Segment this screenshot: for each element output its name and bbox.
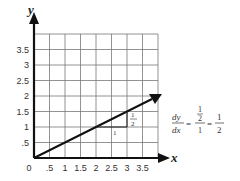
x-tick-label: 2.5: [105, 163, 118, 173]
svg-text:2: 2: [198, 114, 202, 123]
svg-text:dy: dy: [172, 112, 181, 122]
x-tick-label: 2: [93, 163, 98, 173]
y-tick-label: 2: [24, 91, 29, 101]
svg-text:=: =: [207, 119, 212, 129]
y-tick-label: 3: [24, 60, 29, 70]
svg-text:=: =: [186, 119, 191, 129]
x-axis-label: x: [170, 150, 178, 165]
tick-labels: 0.511.522.533.5.511.522.533.5: [16, 45, 148, 174]
svg-text:1: 1: [217, 112, 222, 122]
svg-text:dx: dx: [172, 125, 181, 135]
grid: [34, 34, 158, 158]
y-tick-label: 1.5: [16, 107, 29, 117]
y-tick-label: 3.5: [16, 45, 29, 55]
rise-den: 2: [131, 120, 135, 128]
x-tick-label: .5: [46, 163, 54, 173]
y-tick-label: .5: [21, 138, 29, 148]
rise-num: 1: [131, 111, 135, 119]
x-tick-label: 3.5: [136, 163, 149, 173]
x-tick-label: 1: [62, 163, 67, 173]
svg-text:2: 2: [217, 125, 222, 135]
y-axis-label: y: [26, 2, 34, 17]
x-tick-label: 0: [26, 163, 31, 173]
y-tick-label: 1: [24, 122, 29, 132]
x-tick-label: 3: [124, 163, 129, 173]
svg-text:1: 1: [198, 105, 202, 114]
run-label: 1: [113, 129, 117, 137]
y-tick-label: 2.5: [16, 76, 29, 86]
svg-text:1: 1: [198, 126, 202, 135]
slope-formula: dy dx = 1 2 1 = 1 2: [172, 105, 224, 135]
x-axis-arrow-icon: [158, 153, 170, 163]
data-line: [34, 99, 152, 158]
x-tick-label: 1.5: [74, 163, 87, 173]
slope-diagram: 0.511.522.533.5.511.522.533.5 y x 1 1 2 …: [0, 0, 240, 181]
